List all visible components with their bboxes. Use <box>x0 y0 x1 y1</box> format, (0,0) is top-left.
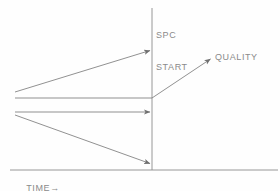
quality-axis-label: QUALITY <box>215 52 258 63</box>
spc-start-label-line1: SPC <box>156 30 188 41</box>
time-arrow-icon: → <box>50 183 60 192</box>
spc-start-label: SPC START <box>156 9 188 93</box>
time-axis-label-text: TIME <box>26 183 50 192</box>
spc-quality-diagram: SPC START QUALITY TIME→ <box>0 0 280 191</box>
time-axis-label: TIME→ <box>14 172 60 191</box>
upper-spread-boundary-line <box>15 51 150 93</box>
spc-start-label-line2: START <box>156 62 188 73</box>
lower-spread-boundary-line <box>15 115 150 164</box>
diagram-canvas <box>0 0 280 191</box>
